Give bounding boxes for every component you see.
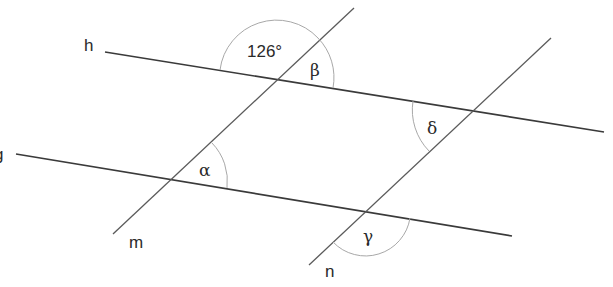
label-m: m bbox=[129, 233, 143, 252]
line-n bbox=[309, 38, 551, 265]
label-h: h bbox=[84, 36, 93, 55]
angle-arc-beta bbox=[318, 38, 334, 88]
geometry-diagram: h g m n 126° β α δ γ bbox=[0, 0, 613, 287]
angle-label-gamma: γ bbox=[363, 226, 373, 246]
line-g bbox=[16, 154, 512, 236]
label-n: n bbox=[325, 262, 334, 281]
angle-arc-alpha bbox=[212, 143, 227, 188]
line-h bbox=[105, 52, 604, 132]
angle-label-alpha: α bbox=[199, 160, 211, 180]
label-g: g bbox=[0, 145, 3, 164]
angle-label-beta: β bbox=[310, 60, 320, 80]
angle-label-126: 126° bbox=[247, 42, 282, 61]
line-m bbox=[113, 8, 354, 234]
angle-label-delta: δ bbox=[427, 118, 437, 138]
